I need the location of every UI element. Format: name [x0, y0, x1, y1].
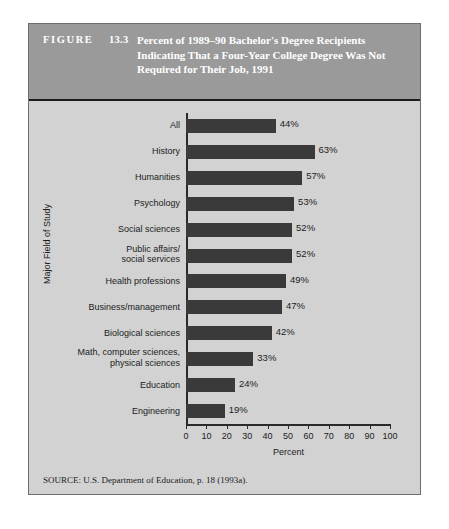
figure-header: FIGURE 13.3 Percent of 1989–90 Bachelor'… [29, 24, 420, 101]
category-label: Health professions [48, 276, 180, 287]
bar-value-label: 24% [239, 378, 258, 389]
bar-row: All44% [186, 119, 390, 133]
bar-row: History63% [186, 145, 390, 159]
bar [186, 326, 272, 340]
bar-row: Humanities57% [186, 171, 390, 185]
category-label: Engineering [48, 406, 180, 417]
bar-row: Public affairs/social services52% [186, 249, 390, 263]
x-axis-tick [268, 424, 269, 429]
x-axis-tick [308, 424, 309, 429]
category-label: Psychology [48, 198, 180, 209]
x-axis-tick [349, 424, 350, 429]
bar-value-label: 57% [306, 170, 325, 181]
bar [186, 249, 292, 263]
bar-row: Social sciences52% [186, 223, 390, 237]
category-label: Business/management [48, 302, 180, 313]
bar-value-label: 44% [280, 118, 299, 129]
x-axis-tick-label: 90 [365, 431, 375, 441]
bar-value-label: 19% [229, 404, 248, 415]
bar [186, 223, 292, 237]
bar [186, 119, 276, 133]
figure-label: FIGURE [43, 34, 93, 45]
bar-row: Psychology53% [186, 197, 390, 211]
bar-value-label: 42% [276, 326, 295, 337]
x-axis-tick [227, 424, 228, 429]
category-label: Biological sciences [48, 328, 180, 339]
bar-value-label: 33% [257, 352, 276, 363]
chart-area: Major Field of Study Percent All44%Histo… [29, 101, 420, 494]
x-axis-label: Percent [186, 447, 391, 457]
bar [186, 352, 253, 366]
bar [186, 378, 235, 392]
bar-row: Biological sciences42% [186, 326, 390, 340]
source-note: SOURCE: U.S. Department of Education, p.… [43, 475, 247, 485]
plot-region: Percent All44%History63%Humanities57%Psy… [186, 113, 390, 424]
x-axis-tick-label: 80 [344, 431, 354, 441]
category-label: Education [48, 380, 180, 391]
bar-value-label: 63% [319, 144, 338, 155]
x-axis-tick [288, 424, 289, 429]
figure-container: FIGURE 13.3 Percent of 1989–90 Bachelor'… [28, 23, 421, 495]
x-axis-tick-label: 10 [201, 431, 211, 441]
bar [186, 145, 315, 159]
bar-row: Engineering19% [186, 404, 390, 418]
bar-row: Health professions49% [186, 274, 390, 288]
figure-title: Percent of 1989–90 Bachelor's Degree Rec… [137, 33, 409, 77]
x-axis-tick [390, 424, 391, 429]
x-axis-tick-label: 70 [324, 431, 334, 441]
x-axis-tick-label: 50 [283, 431, 293, 441]
bar [186, 171, 302, 185]
category-label: History [48, 146, 180, 157]
x-axis-tick [206, 424, 207, 429]
bar [186, 300, 282, 314]
x-axis-tick-label: 40 [263, 431, 273, 441]
bar-row: Business/management47% [186, 300, 390, 314]
bar-row: Math, computer sciences,physical science… [186, 352, 390, 366]
x-axis-tick-label: 0 [183, 431, 188, 441]
bar-value-label: 47% [286, 300, 305, 311]
x-axis-tick [370, 424, 371, 429]
x-axis-tick [186, 424, 187, 429]
category-label: All [48, 120, 180, 131]
x-axis-tick [329, 424, 330, 429]
category-label: Social sciences [48, 224, 180, 235]
x-axis-tick [247, 424, 248, 429]
x-axis-tick-label: 20 [222, 431, 232, 441]
bar-value-label: 53% [298, 196, 317, 207]
category-label: Math, computer sciences,physical science… [48, 347, 180, 368]
bar [186, 197, 294, 211]
bar-value-label: 52% [296, 248, 315, 259]
category-label: Public affairs/social services [48, 244, 180, 265]
bar-value-label: 52% [296, 222, 315, 233]
category-label: Humanities [48, 172, 180, 183]
x-axis-tick-label: 60 [303, 431, 313, 441]
bar-row: Education24% [186, 378, 390, 392]
x-axis-tick-label: 30 [242, 431, 252, 441]
bar-value-label: 49% [290, 274, 309, 285]
figure-number: 13.3 [109, 34, 129, 45]
bar [186, 274, 286, 288]
x-axis-tick-label: 100 [382, 431, 397, 441]
bar [186, 404, 225, 418]
